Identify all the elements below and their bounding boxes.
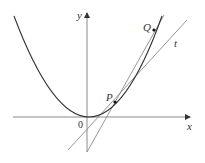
point-q-marker <box>152 28 155 31</box>
point-p-marker <box>113 100 116 103</box>
parabola-curve <box>14 16 162 117</box>
secant-line <box>87 15 164 152</box>
origin-label: 0 <box>78 120 83 130</box>
point-q-label: Q <box>143 22 151 33</box>
tangent-line <box>68 20 187 150</box>
x-axis-label: x <box>187 121 192 132</box>
diagram-canvas: y x 0 P Q t <box>0 0 205 163</box>
diagram-svg <box>0 0 205 163</box>
tangent-label: t <box>174 38 177 49</box>
y-axis-label: y <box>77 10 82 21</box>
point-p-label: P <box>106 92 113 103</box>
